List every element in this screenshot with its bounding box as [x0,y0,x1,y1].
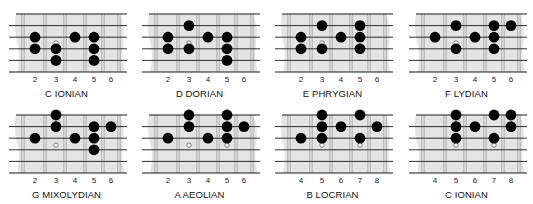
fret-number: 4 [473,75,477,84]
open-note-marker [492,143,496,147]
open-note-marker [225,143,229,147]
fret-number: 4 [339,75,343,84]
note-dot [296,32,307,43]
note-dot [222,133,233,144]
note-dot [184,20,195,31]
note-dot [184,110,195,121]
open-note-marker [54,143,58,147]
note-dot [222,32,233,43]
fret-number: 3 [187,176,191,185]
fret-number: 2 [33,75,37,84]
note-dot [317,133,328,144]
note-dot [184,121,195,132]
mode-title: E PHRYGIAN [266,88,399,99]
mode-title: C IONIAN [0,88,133,99]
mode-diagram: 23456A AEOLIAN [133,115,266,204]
fretboard-graphic [146,14,259,74]
fretboard-graphic [146,115,259,175]
fretboard-graphic [413,14,526,74]
note-dot [470,32,481,43]
note-dot [222,121,233,132]
mode-title: A AEOLIAN [133,189,266,200]
open-note-marker [358,143,362,147]
fret-number: 6 [242,75,246,84]
open-note-marker [320,143,324,147]
fret-number: 6 [509,75,513,84]
note-dot [317,43,328,54]
fretboard-graphic [13,115,126,175]
note-dot [222,43,233,54]
fret-number: 2 [166,75,170,84]
note-dot [317,20,328,31]
mode-title: G MIXOLYDIAN [0,189,133,200]
note-dot [51,121,62,132]
note-dot [355,20,366,31]
fretboard-graphic [279,14,392,74]
fret-number: 4 [299,176,303,185]
mode-diagram: 23456E PHRYGIAN [266,14,399,116]
fret-number: 4 [73,75,77,84]
note-dot [470,121,481,132]
fretboard-graphic [413,115,526,175]
note-dot [489,110,500,121]
note-dot [163,43,174,54]
fret-number: 5 [92,176,96,185]
note-dot [89,55,100,66]
mode-diagram: 45678C IONIAN [400,115,533,204]
mode-title: D DORIAN [133,88,266,99]
note-dot [451,133,462,144]
note-dot [184,43,195,54]
fretboard-graphic [279,115,392,175]
note-dot [355,110,366,121]
fretboard [13,115,126,175]
fret-number: 3 [54,176,58,185]
mode-title: F LYDIAN [400,88,533,99]
note-dot [355,43,366,54]
note-dot [506,20,517,31]
fret-number: 4 [206,75,210,84]
fret-number: 5 [225,176,229,185]
fret-number: 6 [473,176,477,185]
fret-number: 5 [492,75,496,84]
fret-number: 6 [109,176,113,185]
note-dot [30,43,41,54]
fret-number: 5 [358,75,362,84]
note-dot [89,32,100,43]
fret-number: 7 [492,176,496,185]
note-dot [489,133,500,144]
note-dot [430,32,441,43]
note-dot [89,144,100,155]
note-dot [89,121,100,132]
fret-number: 3 [454,75,458,84]
fret-number: 8 [509,176,513,185]
fretboard [279,14,392,74]
mode-diagram: 23456C IONIAN [0,14,133,116]
mode-title: C IONIAN [400,189,533,200]
fret-number: 4 [73,176,77,185]
note-dot [163,133,174,144]
fret-number: 5 [92,75,96,84]
note-dot [30,133,41,144]
note-dot [355,133,366,144]
note-dot [70,32,81,43]
note-dot [451,121,462,132]
note-dot [51,55,62,66]
fret-number: 4 [433,176,437,185]
note-dot [51,43,62,54]
note-dot [451,43,462,54]
note-dot [89,133,100,144]
note-dot [70,133,81,144]
note-dot [372,121,383,132]
open-note-marker [187,143,191,147]
note-dot [203,32,214,43]
fret-number: 3 [54,75,58,84]
fret-number: 3 [187,75,191,84]
fretboard [13,14,126,74]
fretboard [146,115,259,175]
note-dot [506,121,517,132]
fret-number: 5 [454,176,458,185]
note-dot [106,121,117,132]
fretboard [279,115,392,175]
note-dot [451,110,462,121]
fret-number: 2 [166,176,170,185]
